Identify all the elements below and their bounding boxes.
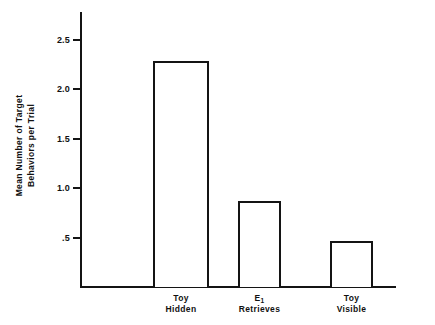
bar [238, 201, 281, 287]
bar [330, 241, 373, 287]
y-axis-line [80, 12, 82, 288]
y-axis-tick-label: 1.5 [36, 134, 70, 144]
category-label-subscript: 1 [261, 297, 265, 304]
y-axis-tick-label: 2.5 [36, 35, 70, 45]
x-axis-category-label: ToyVisible [337, 293, 367, 315]
category-label-line1: Toy [344, 293, 360, 303]
bar [153, 61, 209, 287]
x-axis-category-label: E1Retrieves [239, 293, 280, 315]
y-axis-tick-label: 1.0 [36, 183, 70, 193]
category-label-line2: Retrieves [239, 304, 280, 315]
y-axis-title-line2: Behaviors per Trial [26, 94, 38, 196]
x-axis-category-label: ToyHidden [166, 293, 197, 315]
y-axis-tick-label: 2.0 [36, 84, 70, 94]
category-label-line2: Visible [337, 304, 367, 315]
y-axis-tick-label: .5 [36, 233, 70, 243]
y-axis-title-line1: Mean Number of Target [15, 94, 25, 196]
category-label-line1: E [255, 293, 261, 303]
category-label-line1: Toy [173, 293, 189, 303]
category-label-line2: Hidden [166, 304, 197, 315]
bar-chart-figure: Mean Number of Target Behaviors per Tria… [0, 0, 435, 325]
